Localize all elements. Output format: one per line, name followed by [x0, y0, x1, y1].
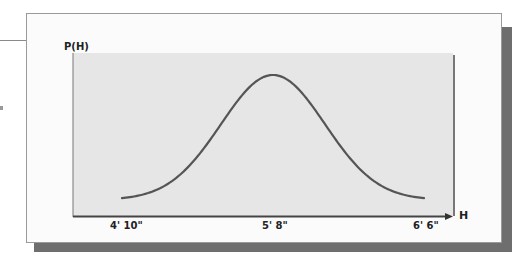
y-axis-label: P(H) [64, 41, 89, 52]
x-tick-label: 6' 6" [413, 220, 439, 231]
x-tick-label: 5' 8" [262, 220, 288, 231]
x-tick-label: 4' 10" [110, 220, 143, 231]
x-axis-label: H [459, 209, 468, 222]
